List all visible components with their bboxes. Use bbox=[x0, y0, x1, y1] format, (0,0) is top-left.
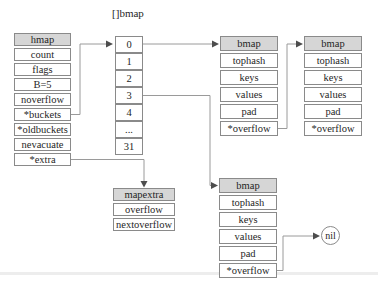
bucket-cell-3: 3 bbox=[115, 87, 143, 104]
bmap2-row-tophash: tophash bbox=[304, 53, 362, 68]
bmap-bottom: bmap tophash keys values pad *overflow bbox=[219, 178, 277, 278]
bmap3-row-pad: pad bbox=[219, 246, 277, 261]
bucket-cell-0: 0 bbox=[115, 36, 143, 53]
bucket-cell-4: 4 bbox=[115, 104, 143, 121]
bmap3-row-values: values bbox=[219, 229, 277, 244]
hmap-header: hmap bbox=[14, 33, 71, 46]
bmap1-row-tophash: tophash bbox=[220, 53, 278, 68]
bmap-top-first: bmap tophash keys values pad *overflow bbox=[220, 36, 278, 136]
mapextra-header: mapextra bbox=[113, 188, 175, 201]
bmap2-header: bmap bbox=[304, 36, 362, 51]
bucket-cell-dots: ... bbox=[115, 121, 143, 138]
mapextra-row-nextoverflow: nextoverflow bbox=[113, 218, 175, 231]
arrow-extra-to-mapextra bbox=[71, 160, 148, 188]
bmap1-row-overflow: *overflow bbox=[220, 121, 278, 136]
bmap1-row-keys: keys bbox=[220, 70, 278, 85]
bmap2-row-overflow: *overflow bbox=[304, 121, 362, 136]
arrow-cell3-to-bottom-bmap bbox=[143, 96, 218, 190]
bmap3-row-keys: keys bbox=[219, 212, 277, 227]
bmap2-row-pad: pad bbox=[304, 104, 362, 119]
bmap-top-second: bmap tophash keys values pad *overflow bbox=[304, 36, 362, 136]
bmap1-row-values: values bbox=[220, 87, 278, 102]
arrow-buckets-to-array bbox=[71, 41, 113, 115]
mapextra-row-overflow: overflow bbox=[113, 203, 175, 216]
hmap-row-count: count bbox=[14, 48, 71, 61]
arrow-overflow-to-bmap2 bbox=[278, 41, 303, 129]
bucket-cell-31: 31 bbox=[115, 138, 143, 155]
bucket-cell-2: 2 bbox=[115, 70, 143, 87]
bucket-array-label: []bmap bbox=[100, 7, 156, 19]
bmap3-row-tophash: tophash bbox=[219, 195, 277, 210]
hmap-row-b: B=5 bbox=[14, 78, 71, 91]
hmap-row-oldbuckets: *oldbuckets bbox=[14, 123, 71, 136]
arrow-cell0-to-bmap1 bbox=[143, 41, 219, 48]
hmap-struct: hmap count flags B=5 noverflow *buckets … bbox=[14, 33, 71, 166]
bucket-array: 0 1 2 3 4 ... 31 bbox=[115, 36, 143, 155]
bmap2-row-keys: keys bbox=[304, 70, 362, 85]
arrow-overflow-to-nil bbox=[277, 233, 320, 271]
hmap-row-nevacuate: nevacuate bbox=[14, 138, 71, 151]
mapextra-struct: mapextra overflow nextoverflow bbox=[113, 188, 175, 231]
nil-node: nil bbox=[321, 226, 340, 245]
bmap3-header: bmap bbox=[219, 178, 277, 193]
bmap3-row-overflow: *overflow bbox=[219, 263, 277, 278]
hmap-row-flags: flags bbox=[14, 63, 71, 76]
hmap-row-buckets: *buckets bbox=[14, 108, 71, 121]
bmap1-header: bmap bbox=[220, 36, 278, 51]
bmap1-row-pad: pad bbox=[220, 104, 278, 119]
bmap2-row-values: values bbox=[304, 87, 362, 102]
bucket-cell-1: 1 bbox=[115, 53, 143, 70]
diagram-canvas: []bmap hmap count flags B=5 noverflow *b… bbox=[0, 0, 378, 291]
faint-bottom-rule bbox=[0, 272, 378, 275]
hmap-row-extra: *extra bbox=[14, 153, 71, 166]
hmap-row-noverflow: noverflow bbox=[14, 93, 71, 106]
